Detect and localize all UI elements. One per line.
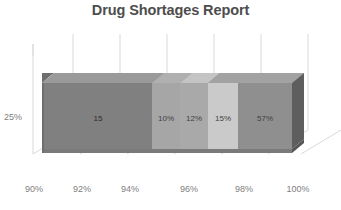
y-axis-label: 25% bbox=[4, 112, 22, 122]
stacked-bar-3d: 15 10% 12% 15% 57% bbox=[42, 71, 316, 156]
x-axis-tick-labels: 90% 92% 94% 96% 98% 100% bbox=[0, 184, 341, 200]
x-tick-6: 100% bbox=[286, 184, 309, 194]
x-tick-1: 90% bbox=[25, 184, 43, 194]
drug-shortages-chart: Drug Shortages Report bbox=[0, 0, 341, 210]
bar-top-face-right bbox=[208, 73, 304, 83]
bar-bottom-shadow bbox=[42, 149, 292, 153]
x-tick-4: 96% bbox=[180, 184, 198, 194]
bar-right-side-face bbox=[292, 73, 304, 149]
plot-area: 15 10% 12% 15% 57% bbox=[0, 26, 341, 178]
x-tick-2: 92% bbox=[73, 184, 91, 194]
segment-label-5: 57% bbox=[238, 114, 292, 124]
chart-title: Drug Shortages Report bbox=[0, 2, 341, 18]
x-tick-5: 98% bbox=[235, 184, 253, 194]
x-tick-3: 94% bbox=[121, 184, 139, 194]
segment-label-3: 12% bbox=[177, 114, 211, 124]
segment-label-1: 15 bbox=[78, 114, 118, 124]
bar-left-edge bbox=[42, 83, 44, 153]
segment-label-4: 15% bbox=[207, 114, 239, 124]
